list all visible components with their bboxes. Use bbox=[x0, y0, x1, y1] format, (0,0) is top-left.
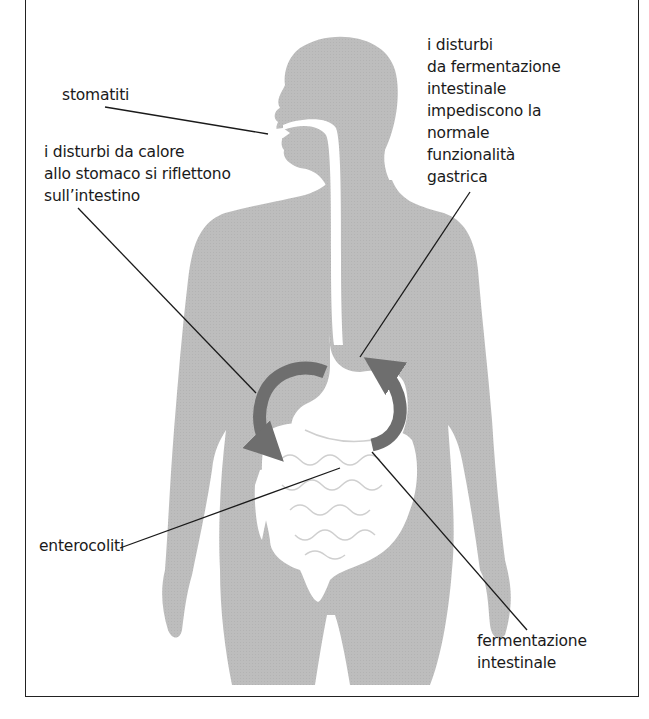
label-enterocoliti: enterocoliti bbox=[39, 535, 124, 557]
label-heat-disorders: i disturbi da calore allo stomaco si rif… bbox=[44, 141, 231, 207]
label-fermentazione: fermentazione intestinale bbox=[477, 630, 587, 674]
label-fermentation-disorders: i disturbi da fermentazione intestinale … bbox=[427, 34, 560, 188]
leader-line-stomatiti bbox=[105, 107, 268, 134]
label-stomatiti: stomatiti bbox=[62, 84, 129, 106]
